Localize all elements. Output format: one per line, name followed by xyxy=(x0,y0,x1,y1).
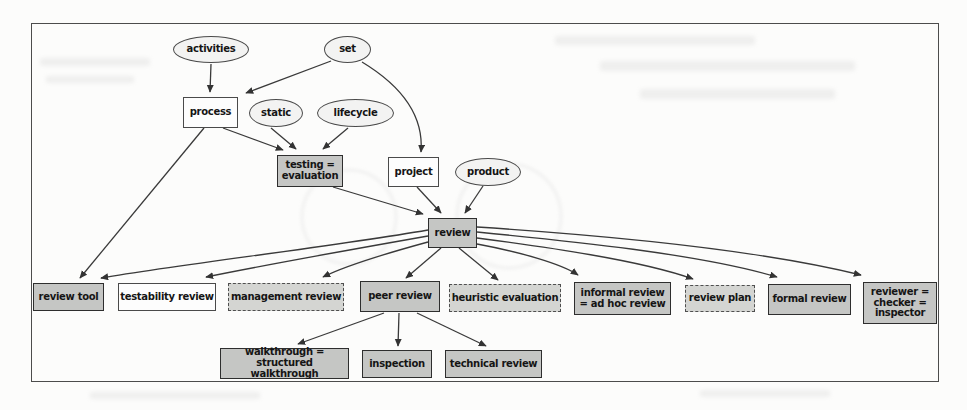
node-heuristic-evaluation: heuristic evaluation xyxy=(449,284,561,312)
node-technical-review: technical review xyxy=(445,350,542,378)
node-review-plan: review plan xyxy=(685,285,755,312)
figure-border-frame xyxy=(31,23,939,382)
node-testing-evaluation: testing = evaluation xyxy=(277,155,343,187)
node-formal-review: formal review xyxy=(768,284,851,315)
node-testability-review: testability review xyxy=(118,283,216,311)
node-review: review xyxy=(428,218,477,248)
scan-bleed-artifact xyxy=(700,390,830,397)
node-static: static xyxy=(249,99,303,127)
node-product: product xyxy=(455,158,521,186)
node-activities: activities xyxy=(173,36,249,63)
scan-bleed-artifact xyxy=(90,392,260,399)
node-peer-review: peer review xyxy=(360,281,440,312)
node-lifecycle: lifecycle xyxy=(317,99,394,127)
node-management-review: management review xyxy=(228,283,344,311)
scanned-diagram-page: activities set static lifecycle product … xyxy=(0,0,967,410)
node-set: set xyxy=(324,36,371,63)
node-reviewer-checker-inspector: reviewer = checker = inspector xyxy=(863,282,937,324)
node-process: process xyxy=(183,97,238,128)
node-walkthrough: walkthrough = structured walkthrough xyxy=(220,348,349,379)
node-project: project xyxy=(388,157,439,187)
node-inspection: inspection xyxy=(362,350,432,378)
node-informal-review: informal review = ad hoc review xyxy=(574,282,671,315)
node-review-tool: review tool xyxy=(33,283,104,311)
